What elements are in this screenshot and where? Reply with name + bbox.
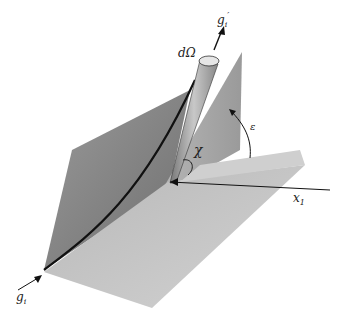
chi-label: χ (194, 143, 202, 157)
cone-cap (199, 56, 219, 66)
arrow-head-icon (34, 275, 42, 283)
d-omega-label: dΩ (178, 47, 196, 59)
incoming-direction-arrow (18, 278, 38, 290)
epsilon-label: ε (250, 122, 255, 132)
g-prime-label: gi′ (217, 12, 229, 29)
g-i-label: gi (16, 291, 26, 306)
x1-label: x1 (293, 192, 305, 207)
scattering-diagram (0, 0, 344, 319)
